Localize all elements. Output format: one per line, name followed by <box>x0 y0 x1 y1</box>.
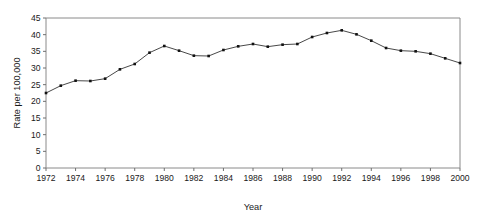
x-axis-title: Year <box>244 202 263 212</box>
data-point <box>163 45 166 48</box>
x-tick-label: 1976 <box>96 173 115 183</box>
data-point <box>89 80 92 83</box>
x-tick-label: 1984 <box>214 173 233 183</box>
x-tick-label: 1978 <box>125 173 144 183</box>
data-point <box>459 62 462 65</box>
x-tick-label: 2000 <box>450 173 469 183</box>
data-point <box>326 32 329 35</box>
x-tick-label: 1994 <box>362 173 381 183</box>
x-axis-ticks: 1972197419761978198019821984198619881990… <box>36 168 469 183</box>
x-tick-label: 1988 <box>273 173 292 183</box>
data-point <box>59 84 62 87</box>
y-tick-label: 45 <box>31 13 41 23</box>
line-chart: 051015202530354045 197219741976197819801… <box>0 0 490 219</box>
data-point <box>119 68 122 71</box>
data-point <box>178 49 181 52</box>
data-point <box>74 79 77 82</box>
x-tick-label: 1998 <box>421 173 440 183</box>
y-tick-label: 0 <box>36 163 41 173</box>
data-point <box>193 54 196 57</box>
data-point <box>252 43 255 46</box>
data-point <box>266 45 269 48</box>
x-tick-label: 1990 <box>303 173 322 183</box>
data-point <box>296 43 299 46</box>
y-axis-ticks: 051015202530354045 <box>31 13 46 173</box>
x-tick-label: 1980 <box>155 173 174 183</box>
y-tick-label: 20 <box>31 96 41 106</box>
y-tick-label: 40 <box>31 30 41 40</box>
data-point <box>207 55 210 58</box>
y-axis-title: Rate per 100,000 <box>12 57 22 128</box>
data-point <box>400 49 403 52</box>
y-tick-label: 30 <box>31 63 41 73</box>
chart-figure: 051015202530354045 197219741976197819801… <box>0 0 490 219</box>
x-tick-label: 1974 <box>66 173 85 183</box>
x-tick-label: 1992 <box>332 173 351 183</box>
data-point <box>311 36 314 39</box>
data-point <box>104 77 107 80</box>
plot-background <box>46 18 460 168</box>
y-tick-label: 5 <box>36 146 41 156</box>
data-point <box>385 47 388 50</box>
x-tick-label: 1986 <box>243 173 262 183</box>
data-point <box>148 51 151 54</box>
data-point <box>133 63 136 66</box>
data-point <box>355 33 358 36</box>
y-tick-label: 35 <box>31 46 41 56</box>
data-point <box>45 92 48 95</box>
data-point <box>237 45 240 48</box>
y-tick-label: 25 <box>31 80 41 90</box>
data-point <box>222 49 225 52</box>
x-tick-label: 1972 <box>36 173 55 183</box>
data-point <box>444 57 447 60</box>
data-point <box>281 43 284 46</box>
y-tick-label: 15 <box>31 113 41 123</box>
y-tick-label: 10 <box>31 130 41 140</box>
data-point <box>340 29 343 32</box>
data-point <box>429 52 432 55</box>
x-tick-label: 1996 <box>391 173 410 183</box>
x-tick-label: 1982 <box>184 173 203 183</box>
data-point <box>370 39 373 42</box>
data-point <box>414 50 417 53</box>
